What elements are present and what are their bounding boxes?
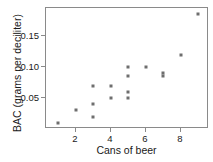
y-axis-title: BAC (grams per deciliter) bbox=[11, 8, 23, 138]
y-axis-tick bbox=[41, 66, 45, 67]
plot-area bbox=[45, 7, 208, 128]
data-point bbox=[57, 121, 60, 124]
x-axis-title: Cans of beer bbox=[45, 144, 208, 156]
x-axis-tick-label: 6 bbox=[133, 133, 157, 144]
data-point bbox=[144, 65, 147, 68]
x-axis-tick bbox=[145, 128, 146, 132]
x-axis-tick-label: 2 bbox=[63, 133, 87, 144]
data-point bbox=[109, 96, 112, 99]
y-axis-tick bbox=[41, 35, 45, 36]
x-axis-tick-label: 8 bbox=[168, 133, 192, 144]
data-point-layer bbox=[46, 8, 207, 127]
data-point bbox=[162, 75, 165, 78]
scatter-plot-screenshot: BAC (grams per deciliter) Cans of beer 0… bbox=[0, 0, 213, 162]
data-point bbox=[162, 72, 165, 75]
data-point bbox=[179, 53, 182, 56]
data-point bbox=[109, 84, 112, 87]
x-axis-tick bbox=[75, 128, 76, 132]
x-axis-tick-label: 4 bbox=[98, 133, 122, 144]
x-axis-tick bbox=[110, 128, 111, 132]
data-point bbox=[74, 109, 77, 112]
data-point bbox=[197, 13, 200, 16]
x-axis-tick bbox=[180, 128, 181, 132]
data-point bbox=[127, 65, 130, 68]
data-point bbox=[127, 96, 130, 99]
y-axis-tick-label: 0.15 bbox=[3, 29, 39, 40]
y-axis-tick-label: 0.10 bbox=[3, 60, 39, 71]
data-point bbox=[92, 115, 95, 118]
data-point bbox=[92, 84, 95, 87]
data-point bbox=[92, 103, 95, 106]
data-point bbox=[127, 90, 130, 93]
y-axis-tick-label: 0.05 bbox=[3, 91, 39, 102]
y-axis-tick bbox=[41, 97, 45, 98]
data-point bbox=[127, 75, 130, 78]
